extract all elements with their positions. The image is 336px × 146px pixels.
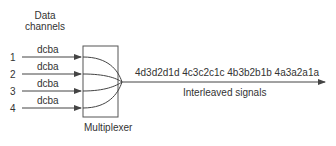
data-channels-heading: Data channels [22, 10, 68, 32]
channel-4-number: 4 [10, 103, 16, 114]
merge-curve-3 [83, 82, 122, 91]
merge-curve-2 [83, 74, 122, 82]
channel-2-number: 2 [10, 69, 16, 80]
channel-1-data: dcba [37, 44, 59, 55]
channel-2-data: dcba [37, 61, 59, 72]
heading-line-1: Data [22, 10, 68, 21]
channel-1-number: 1 [10, 52, 16, 63]
output-sequence: 4d3d2d1d 4c3c2c1c 4b3b2b1b 4a3a2a1a [135, 67, 319, 78]
multiplexer-box [83, 46, 118, 117]
merge-curve-1 [83, 57, 122, 82]
heading-line-2: channels [22, 21, 68, 32]
multiplexer-label: Multiplexer [84, 122, 132, 133]
channel-3-data: dcba [37, 78, 59, 89]
output-label: Interleaved signals [183, 87, 266, 98]
channel-3-number: 3 [10, 86, 16, 97]
channel-4-data: dcba [37, 95, 59, 106]
merge-curve-4 [83, 82, 122, 108]
